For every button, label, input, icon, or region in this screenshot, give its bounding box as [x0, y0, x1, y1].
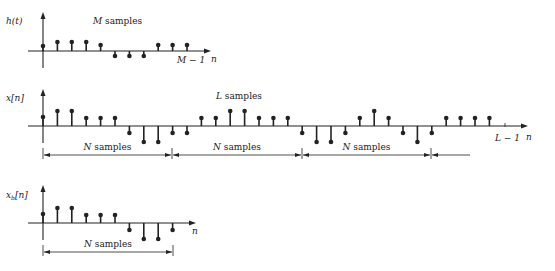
h-sample	[185, 43, 190, 51]
x-sample	[156, 126, 161, 144]
x-sample	[300, 126, 305, 135]
x-y-arrow-icon	[41, 89, 46, 96]
x-sample	[487, 116, 492, 126]
x-segment-3-label: N samples	[342, 142, 391, 152]
x-sample	[142, 126, 147, 144]
xb-sample	[41, 212, 46, 223]
x-sample	[199, 116, 204, 126]
x-sample	[271, 116, 276, 126]
x-plot: x[n]L samplesL − 1nN samplesN samplesN s…	[6, 89, 532, 159]
xb-segment-label: N samples	[83, 239, 132, 249]
x-sample	[70, 109, 75, 126]
xb-sample	[55, 206, 60, 223]
x-sample	[286, 116, 291, 126]
x-sample	[55, 109, 60, 126]
x-sample	[214, 116, 219, 126]
x-segment-2-label: N samples	[212, 142, 261, 152]
h-sample	[55, 40, 60, 51]
x-segment-1: N samples	[44, 142, 171, 157]
x-sample	[329, 126, 334, 144]
h-ylabel: h(t)	[6, 16, 23, 26]
h-plot: h(t)M samplesM − 1n	[6, 12, 217, 68]
h-sample	[41, 44, 46, 51]
x-ylabel: x[n]	[6, 93, 24, 103]
xb-plot: xb[n]nN samples	[6, 185, 198, 256]
x-sample	[314, 126, 319, 144]
xb-segment: N samples	[44, 239, 172, 254]
h-y-arrow-icon	[41, 12, 46, 19]
xb-ylabel: xb[n]	[6, 190, 28, 201]
x-sample	[170, 126, 175, 135]
x-segment-1-label: N samples	[83, 142, 132, 152]
x-sample	[127, 126, 132, 135]
h-sample	[156, 43, 161, 51]
x-sample	[386, 116, 391, 126]
h-annotation: M samples	[92, 16, 143, 26]
x-sample	[430, 126, 435, 135]
x-sample	[458, 116, 463, 126]
h-end-label: M − 1	[176, 55, 205, 65]
x-end-label: L − 1	[494, 133, 520, 143]
xb-xlabel: n	[192, 226, 198, 236]
x-xlabel: n	[526, 132, 532, 142]
xb-sample	[170, 223, 175, 232]
x-sample	[257, 116, 262, 126]
x-sample	[41, 115, 46, 126]
x-sample	[372, 109, 377, 126]
h-sample	[98, 43, 103, 51]
h-sample	[127, 51, 132, 58]
x-annotation: L samples	[215, 91, 262, 101]
x-segment-3: N samples	[303, 142, 430, 157]
x-sample	[358, 116, 363, 126]
x-sample	[473, 116, 478, 126]
h-x-arrow-icon	[204, 49, 211, 54]
xb-sample	[98, 213, 103, 223]
x-sample	[444, 116, 449, 126]
x-sample	[98, 116, 103, 126]
h-sample	[142, 51, 147, 58]
x-x-arrow-icon	[521, 124, 528, 129]
h-sample	[70, 40, 75, 51]
x-sample	[185, 126, 190, 135]
x-sample	[228, 109, 233, 126]
x-segment-2: N samples	[173, 142, 301, 157]
x-sample	[401, 126, 406, 135]
h-xlabel: n	[211, 54, 217, 64]
signal-diagram: h(t)M samplesM − 1nx[n]L samplesL − 1nN …	[0, 0, 555, 271]
x-sample	[415, 126, 420, 144]
xb-sample	[113, 213, 118, 223]
xb-sample	[84, 213, 89, 223]
xb-sample	[142, 223, 147, 241]
x-sample	[343, 126, 348, 135]
x-sample	[242, 109, 247, 126]
h-sample	[170, 43, 175, 51]
xb-y-arrow-icon	[41, 185, 46, 192]
x-sample	[113, 116, 118, 126]
xb-sample	[156, 223, 161, 241]
xb-sample	[70, 206, 75, 223]
h-sample	[113, 51, 118, 58]
x-segment-trailing-arrow-icon	[432, 153, 438, 157]
xb-x-arrow-icon	[189, 221, 196, 226]
h-sample	[84, 40, 89, 51]
xb-sample	[127, 223, 132, 232]
x-sample	[84, 116, 89, 126]
